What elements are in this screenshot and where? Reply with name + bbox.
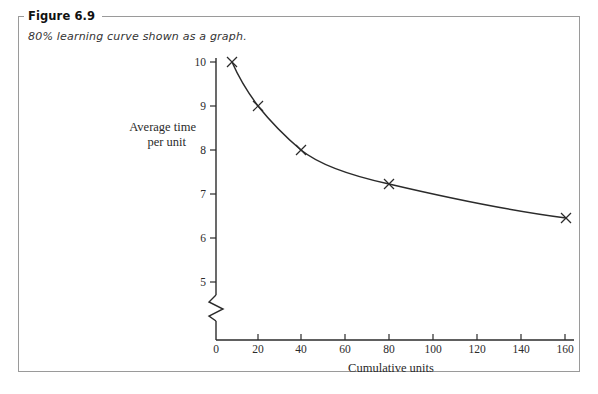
figure-label: Figure 6.9 (24, 9, 102, 23)
figure-frame (18, 16, 580, 372)
figure-caption: 80% learning curve shown as a graph. (28, 30, 247, 43)
